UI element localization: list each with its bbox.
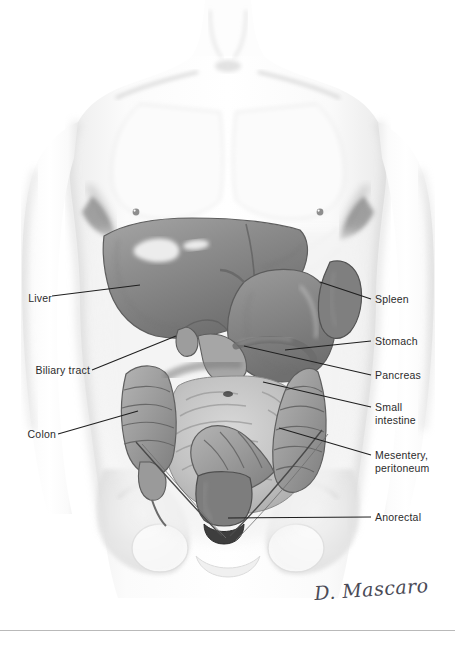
label-biliary-tract: Biliary tract: [8, 364, 90, 377]
umbilicus: [223, 391, 233, 397]
label-colon: Colon: [8, 428, 56, 441]
left-nipple: [133, 209, 140, 216]
sternal-notch: [215, 60, 241, 72]
abdominal-viscera: [99, 218, 362, 544]
label-liver: Liver: [8, 292, 52, 305]
label-stomach: Stomach: [375, 335, 418, 348]
right-nipple: [317, 209, 324, 216]
right-nipple-highlight: [318, 210, 320, 212]
label-anorectal: Anorectal: [375, 511, 421, 524]
label-small-intestine: Small intestine: [375, 401, 416, 427]
footer-divider: [0, 630, 455, 631]
label-spleen: Spleen: [375, 293, 409, 306]
label-pancreas: Pancreas: [375, 369, 421, 382]
right-pectoral: [233, 104, 344, 219]
left-nipple-highlight: [134, 210, 136, 212]
anatomy-illustration: [0, 0, 455, 645]
label-mesentery-peritoneum: Mesentery, peritoneum: [375, 449, 430, 475]
left-pectoral: [112, 104, 223, 219]
footer-caption: [6, 636, 436, 645]
